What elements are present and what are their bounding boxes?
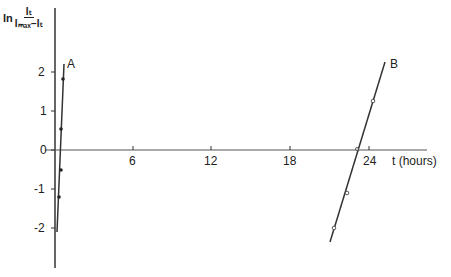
series-b-fit-line: [330, 62, 385, 242]
chart-canvas: 2 1 0 -1 -2 6 12 18 24 t (hours) A B: [0, 0, 451, 277]
y-tick-label: 1: [40, 104, 47, 118]
series-a: A: [57, 57, 75, 232]
series-b-label: B: [390, 57, 398, 71]
x-tick-label: 24: [363, 154, 377, 168]
data-point: [356, 148, 359, 151]
data-point: [59, 127, 63, 131]
data-point: [345, 191, 349, 195]
series-a-fit-line: [57, 64, 64, 232]
data-point: [57, 195, 61, 199]
data-point: [61, 77, 65, 81]
x-tick-label: 6: [129, 154, 136, 168]
y-tick-label: 2: [38, 65, 45, 79]
data-point: [332, 226, 336, 230]
y-tick-label: -2: [34, 221, 45, 235]
data-point: [371, 99, 375, 103]
data-point: [59, 168, 63, 172]
series-a-label: A: [67, 57, 75, 71]
x-axis-label: t (hours): [392, 154, 437, 168]
x-tick-label: 12: [204, 154, 218, 168]
y-tick-label: 0: [40, 143, 47, 157]
x-ticks: 6 12 18 24 t (hours): [129, 146, 437, 168]
x-tick-label: 18: [283, 154, 297, 168]
y-tick-label: -1: [34, 182, 45, 196]
y-ticks: 2 1 0 -1 -2: [34, 65, 55, 235]
